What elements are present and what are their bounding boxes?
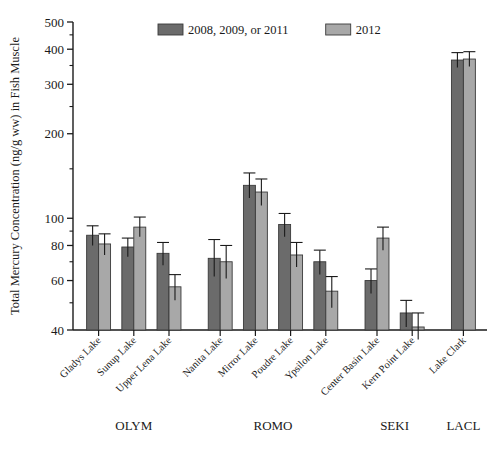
- y-tick-label: 500: [45, 15, 65, 30]
- y-tick-label: 200: [45, 126, 65, 141]
- legend-label-2: 2012: [356, 23, 381, 37]
- bar-poudre-lake-series1: [279, 225, 291, 330]
- group-label-romo: ROMO: [253, 418, 292, 433]
- y-tick-label: 100: [45, 211, 65, 226]
- category-labels: Gladys LakeSunup LakeUpper Lena LakeNani…: [58, 334, 469, 398]
- bar-center-basin-lake-series2: [377, 238, 389, 330]
- bar-gladys-lake-series1: [87, 235, 99, 330]
- bar-lake-clark-series1: [451, 60, 463, 330]
- legend-swatch-1: [158, 24, 183, 35]
- bar-sunup-lake-series1: [122, 247, 134, 330]
- legend: 2008, 2009, or 20112012: [158, 23, 381, 37]
- x-axis-label-lake-clark: Lake Clark: [427, 334, 468, 375]
- group-label-lacl: LACL: [446, 418, 480, 433]
- bar-mirror-lake-series2: [255, 192, 267, 330]
- y-tick-group: 406080100200300400500: [45, 15, 74, 338]
- y-axis-title-text: Total Mercury Concentration (ng/g ww) in…: [8, 37, 22, 315]
- group-label-olym: OLYM: [115, 418, 152, 433]
- mercury-bar-chart: 406080100200300400500Total Mercury Conce…: [0, 0, 497, 456]
- y-axis-title: Total Mercury Concentration (ng/g ww) in…: [8, 37, 22, 315]
- legend-label-1: 2008, 2009, or 2011: [188, 23, 289, 37]
- bar-lake-clark-series2: [463, 59, 475, 330]
- bars-group: [87, 52, 476, 340]
- y-tick-label: 400: [45, 42, 65, 57]
- error-bar: [412, 313, 424, 340]
- bar-gladys-lake-series2: [99, 244, 111, 330]
- bar-sunup-lake-series2: [134, 227, 146, 330]
- group-labels: OLYMROMOSEKILACL: [115, 418, 480, 433]
- bar-mirror-lake-series1: [243, 185, 255, 330]
- chart-container: 406080100200300400500Total Mercury Conce…: [0, 0, 497, 456]
- y-tick-label: 40: [51, 323, 64, 338]
- y-tick-label: 80: [51, 238, 64, 253]
- group-label-seki: SEKI: [380, 418, 409, 433]
- y-tick-label: 300: [45, 77, 65, 92]
- legend-swatch-2: [326, 24, 351, 35]
- y-tick-label: 60: [51, 273, 64, 288]
